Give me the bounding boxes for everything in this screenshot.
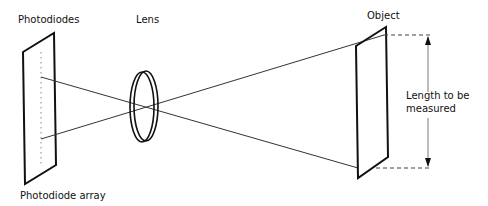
ray-lower [41,35,384,139]
label-object: Object [367,10,400,22]
arrow-up-icon [425,36,431,45]
label-lens: Lens [136,14,159,26]
label-length-line2: measured [406,103,456,115]
optical-measurement-diagram: Photodiodes Lens Object Length to be mea… [0,0,488,206]
arrow-down-icon [425,158,431,167]
light-rays [41,35,384,168]
object-panel [356,27,388,178]
label-photodiode-array: Photodiode array [20,190,106,202]
label-photodiodes: Photodiodes [18,14,79,26]
photodiode-panel [23,33,56,184]
lens [130,71,158,142]
label-length-line1: Length to be [406,90,469,102]
